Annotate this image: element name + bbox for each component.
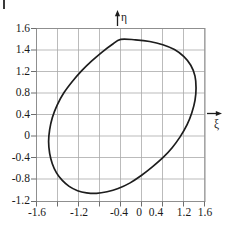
y-axis-tick-marks <box>31 29 37 202</box>
data-curve <box>49 39 196 193</box>
y-tick-label: 0 <box>6 130 30 142</box>
y-tick-label: -1.2 <box>4 195 30 207</box>
arrow-up-icon <box>115 10 120 26</box>
y-tick-label: 0.4 <box>6 109 30 121</box>
figure-container: 1.6 1.4 1.2 0.8 0.4 0 -0.4 -0.8 -1.2 -1.… <box>0 0 232 226</box>
x-tick-label: -0.4 <box>105 207 133 219</box>
horizontal-axis-label: ξ <box>214 119 219 131</box>
plot-canvas <box>0 0 232 226</box>
grid-vertical-lines <box>37 28 205 202</box>
x-tick-label: 0.4 <box>144 207 168 219</box>
y-tick-label: 0.8 <box>6 87 30 99</box>
y-tick-label: -0.8 <box>4 173 30 185</box>
vertical-axis-label: η <box>121 12 127 24</box>
x-tick-label: 1.6 <box>191 207 219 219</box>
y-tick-label: 1.6 <box>6 23 30 35</box>
y-tick-label: 1.2 <box>6 66 30 78</box>
arrow-right-icon <box>207 111 222 116</box>
x-tick-label: -1.6 <box>23 207 51 219</box>
x-tick-label: -1.2 <box>65 207 93 219</box>
y-tick-label: -0.4 <box>4 152 30 164</box>
y-tick-label: 1.4 <box>6 44 30 56</box>
